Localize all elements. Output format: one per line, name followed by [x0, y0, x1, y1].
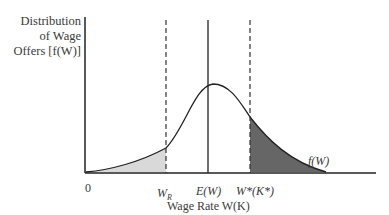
wstar-label: W*(K*): [236, 184, 274, 199]
origin-label: 0: [85, 181, 91, 196]
ew-label: E(W): [196, 184, 221, 199]
x-axis-label: Wage Rate W(K): [167, 199, 250, 214]
distribution-chart: [0, 0, 389, 215]
curve-label: f(W): [308, 154, 329, 169]
shaded-region-below-wr: [86, 148, 166, 172]
